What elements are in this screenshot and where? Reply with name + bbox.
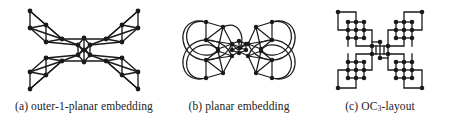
diagram-outer-1-planar	[0, 2, 168, 98]
caption-a: (a) outer-1-planar embedding	[0, 100, 168, 112]
caption-c-prefix: (c) OC	[345, 100, 377, 112]
subfigure-a: (a) outer-1-planar embedding	[0, 0, 168, 133]
subfigure-b: (b) planar embedding	[168, 0, 310, 133]
figure-row: (a) outer-1-planar embedding	[0, 0, 450, 133]
subfigure-c: (c) OC3-layout	[310, 0, 450, 133]
diagram-oc3-layout	[310, 2, 450, 98]
caption-b: (b) planar embedding	[168, 100, 310, 112]
caption-c: (c) OC3-layout	[310, 100, 450, 113]
diagram-planar	[168, 2, 310, 98]
caption-c-suffix: -layout	[382, 100, 415, 112]
